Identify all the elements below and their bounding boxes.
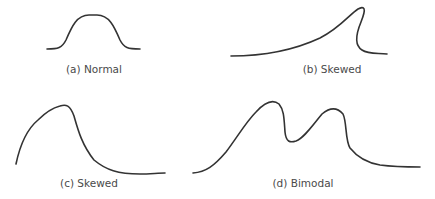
label-skewed-b: (b) Skewed — [303, 64, 362, 75]
curve-normal — [47, 15, 140, 49]
label-normal: (a) Normal — [66, 64, 122, 75]
curve-bimodal — [193, 102, 420, 173]
label-skewed-c: (c) Skewed — [60, 178, 118, 189]
curves-canvas — [0, 0, 435, 199]
label-bimodal: (d) Bimodal — [273, 178, 334, 189]
curve-skewed-b — [231, 8, 387, 56]
curve-skewed-c — [16, 105, 165, 174]
distribution-shapes-figure: (a) Normal (b) Skewed (c) Skewed (d) Bim… — [0, 0, 435, 199]
